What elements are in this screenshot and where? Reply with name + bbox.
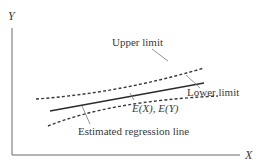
regression-line-label: Estimated regression line [78,125,189,137]
x-axis-label: X [244,148,253,162]
lower-limit-label: Lower limit [187,86,239,98]
mean-point-label: E(X), E(Y) [131,102,179,115]
regression-line [50,83,204,111]
y-axis-label: Y [8,9,16,23]
confidence-band-diagram: Y X Upper limit Lower limit E(X), E(Y) E… [0,0,264,168]
upper-limit-curve [36,68,204,99]
upper-limit-label: Upper limit [112,36,163,48]
upper-limit-pointer [152,49,168,61]
